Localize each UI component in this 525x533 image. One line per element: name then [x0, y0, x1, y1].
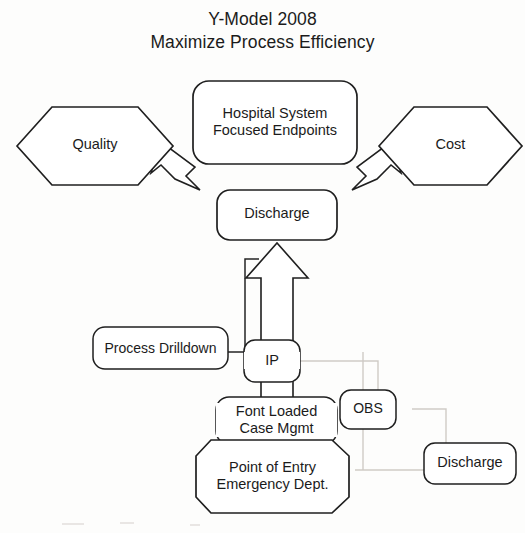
node-ip[interactable] [244, 340, 300, 382]
connector-ip-to-obs [300, 361, 378, 392]
node-hospital-system-focused-endpoints[interactable] [193, 81, 357, 164]
block-arrow-case-mgmt-to-discharge [246, 243, 308, 415]
node-discharge-top[interactable] [217, 190, 337, 240]
node-font-loaded-case-mgmt[interactable] [216, 397, 337, 444]
node-quality[interactable] [17, 107, 173, 185]
node-process-drilldown[interactable] [93, 327, 228, 369]
scan-artifact [120, 522, 134, 524]
node-discharge-lower-right[interactable] [424, 443, 516, 484]
scan-artifact [62, 523, 84, 525]
node-obs[interactable] [340, 390, 396, 429]
diagram-graphics [0, 0, 525, 533]
diagram-canvas: Y-Model 2008 Maximize Process Efficiency [0, 0, 525, 533]
node-point-of-entry[interactable] [196, 440, 349, 513]
scan-artifact [190, 524, 200, 526]
